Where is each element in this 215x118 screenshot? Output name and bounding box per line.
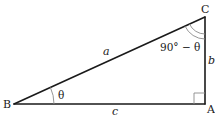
angle-arc-theta <box>50 87 54 104</box>
side-label-a: a <box>103 45 110 58</box>
angle-arc-c-inner <box>190 24 206 34</box>
vertex-label-a: A <box>206 103 215 116</box>
right-triangle-diagram: B A C a b c θ 90° − θ <box>0 0 215 118</box>
side-label-c: c <box>112 105 118 118</box>
angle-label-c: 90° − θ <box>160 41 200 53</box>
vertex-label-b: B <box>3 98 11 111</box>
right-angle-marker <box>194 93 205 104</box>
side-a-hypotenuse <box>14 17 205 104</box>
angle-arc-c-outer <box>185 26 205 39</box>
side-label-b: b <box>208 54 215 67</box>
angle-label-theta: θ <box>58 89 64 101</box>
vertex-label-c: C <box>201 3 209 16</box>
